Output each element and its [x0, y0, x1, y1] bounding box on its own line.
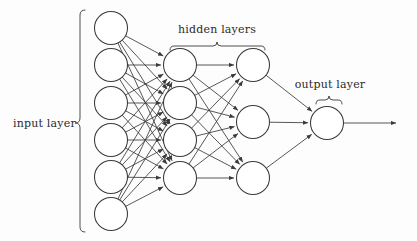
connection-edge: [196, 127, 235, 137]
neural-network-diagram: input layer hidden layers output layer: [0, 0, 417, 241]
neuron-node[interactable]: [95, 161, 128, 194]
neuron-node[interactable]: [164, 87, 197, 120]
connection-edge: [126, 187, 164, 207]
connection-edge: [126, 149, 164, 169]
input-layer-label: input layer: [13, 117, 76, 130]
neuron-node[interactable]: [164, 162, 197, 195]
connection-edge: [196, 107, 235, 117]
input-layer-brace: [75, 10, 85, 232]
neuron-node[interactable]: [95, 198, 128, 231]
neuron-node[interactable]: [95, 49, 128, 82]
neuron-node[interactable]: [311, 107, 344, 140]
neuron-node[interactable]: [164, 49, 197, 82]
neuron-node[interactable]: [95, 124, 128, 157]
connection-edge: [125, 74, 163, 95]
connection-edge: [266, 134, 312, 168]
neuron-nodes: [95, 12, 344, 231]
neuron-node[interactable]: [237, 162, 270, 195]
neuron-node[interactable]: [164, 124, 197, 157]
neuron-node[interactable]: [95, 12, 128, 45]
connection-edge: [126, 36, 164, 56]
neuron-node[interactable]: [237, 106, 270, 139]
diagram-canvas: input layer hidden layers output layer: [0, 0, 417, 241]
connection-edge: [125, 148, 163, 169]
hidden-layers-label: hidden layers: [178, 23, 256, 36]
connection-edge: [125, 73, 163, 94]
output-layer-brace: [316, 96, 342, 104]
neuron-node[interactable]: [95, 87, 128, 120]
output-layer-label: output layer: [295, 78, 366, 91]
neuron-node[interactable]: [237, 49, 270, 82]
connection-edge: [270, 122, 309, 123]
